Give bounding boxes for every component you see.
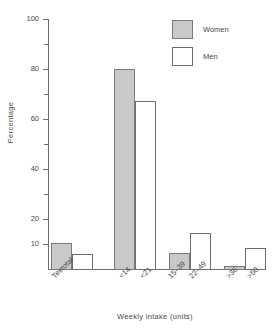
bar-lt21-men: [135, 101, 156, 270]
y-tick-80: 80: [43, 69, 49, 70]
bar-lt14-women: [114, 69, 135, 270]
y-tick-label-10: 10: [31, 239, 39, 248]
y-tick-label-60: 60: [31, 114, 39, 123]
y-tick-minor-90: [44, 44, 49, 45]
plot-area: 100 80 60 40 20 10: [48, 20, 263, 270]
x-axis-title: Weekly intake (units): [40, 312, 270, 321]
y-tick-minor-70: [44, 94, 49, 95]
y-tick-100: 100: [43, 19, 49, 20]
legend-swatch-women-icon: [172, 20, 193, 39]
bar-chart-figure: Percentage Weekly intake (units) 100 80 …: [0, 0, 279, 332]
y-tick-20: 20: [43, 219, 49, 220]
bar-teetotal-men: [72, 254, 93, 270]
legend-swatch-men-icon: [172, 47, 193, 66]
y-tick-label-20: 20: [31, 214, 39, 223]
y-tick-label-80: 80: [31, 64, 39, 73]
y-tick-label-40: 40: [31, 164, 39, 173]
y-tick-minor-30: [44, 194, 49, 195]
y-tick-label-100: 100: [26, 14, 39, 23]
y-tick-60: 60: [43, 119, 49, 120]
y-axis-line: [48, 20, 49, 270]
y-axis-title: Percentage: [6, 83, 15, 163]
legend-label-men: Men: [203, 52, 218, 61]
y-tick-minor-50: [44, 144, 49, 145]
y-tick-40: 40: [43, 169, 49, 170]
legend-label-women: Women: [203, 25, 229, 34]
y-tick-10: 10: [43, 244, 49, 245]
